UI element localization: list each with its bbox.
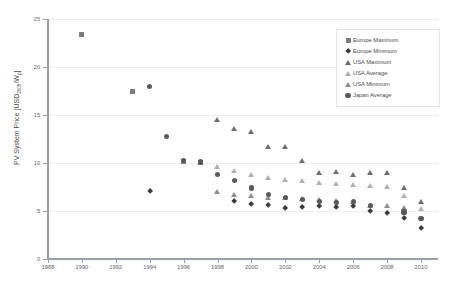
data-point (367, 208, 373, 214)
y-axis-tick-label: 20 (14, 64, 40, 70)
data-point (214, 189, 220, 194)
legend-item-usa-minimum[interactable]: USA Minimum (343, 79, 435, 90)
data-point (248, 172, 254, 177)
data-point (231, 192, 237, 197)
data-point (418, 199, 424, 204)
legend-item-label: Japan Average (353, 90, 392, 101)
data-point (265, 144, 271, 149)
x-axis-tick (184, 259, 185, 263)
legend-item-usa-average[interactable]: USA Average (343, 68, 435, 79)
legend-marker-triangle-icon (343, 79, 353, 90)
data-point (368, 203, 373, 208)
pv-system-price-scatter-chart: PV System Price [USD2005/Wp] 0510152025 … (0, 0, 450, 290)
x-axis-tick (319, 259, 320, 263)
legend-item-usa-maximum[interactable]: USA Maximum (343, 57, 435, 68)
x-axis-tick (387, 259, 388, 263)
data-point (401, 193, 407, 198)
data-point (333, 181, 339, 186)
data-point (79, 32, 84, 37)
data-point (384, 210, 390, 216)
data-point (282, 205, 288, 211)
legend-item-label: USA Average (353, 68, 387, 79)
data-point (316, 170, 322, 175)
data-point (248, 201, 254, 207)
x-axis-tick (251, 259, 252, 263)
legend-item-europe-maximum[interactable]: Europe Maximum (343, 35, 435, 46)
y-axis-title-sub-p: p (17, 72, 22, 75)
data-point (333, 204, 339, 210)
data-point (249, 185, 254, 190)
data-point (214, 164, 220, 169)
data-point (265, 175, 271, 180)
data-point (248, 129, 254, 134)
data-point (418, 216, 423, 221)
data-point (367, 170, 373, 175)
data-point (367, 183, 373, 188)
legend-item-label: Europe Minimum (353, 46, 397, 57)
data-point (164, 134, 169, 139)
data-point (299, 158, 305, 163)
y-axis-tick-label: 15 (14, 112, 40, 118)
y-axis-title-main: PV System Price [USD (13, 94, 20, 165)
data-point (248, 193, 254, 198)
data-point (317, 199, 322, 204)
x-axis-tick-label: 2010 (401, 264, 441, 271)
data-point (418, 225, 424, 231)
data-point (231, 198, 237, 204)
x-axis-tick (285, 259, 286, 263)
x-axis-tick (218, 259, 219, 263)
legend-item-label: USA Maximum (353, 57, 391, 68)
x-axis-tick (48, 259, 49, 263)
data-point (333, 169, 339, 174)
data-point (316, 180, 322, 185)
data-point (282, 144, 288, 149)
legend-item-europe-minimum[interactable]: Europe Minimum (343, 46, 435, 57)
data-point (282, 177, 288, 182)
data-point (418, 206, 424, 211)
data-point (300, 197, 305, 202)
data-point (147, 84, 152, 89)
y-axis-title-tail: /W (13, 75, 20, 84)
x-axis-tick (116, 259, 117, 263)
data-point (232, 178, 237, 183)
data-point (401, 215, 407, 221)
data-point (384, 203, 390, 208)
legend-marker-square-icon (343, 35, 353, 46)
y-axis-title-sub-year: 2005 (17, 84, 22, 94)
legend-item-label: USA Minimum (353, 79, 390, 90)
x-axis-tick (150, 259, 151, 263)
y-axis-tick-label: 0 (14, 256, 40, 262)
data-point (384, 184, 390, 189)
data-point (130, 89, 135, 94)
data-point (401, 209, 406, 214)
data-point (299, 178, 305, 183)
x-axis-tick (82, 259, 83, 263)
data-point (215, 172, 220, 177)
data-point (334, 200, 339, 205)
data-point (316, 203, 322, 209)
legend-item-label: Europe Maximum (353, 35, 398, 46)
data-point (181, 158, 186, 163)
data-point (265, 202, 271, 208)
data-point (350, 182, 356, 187)
chart-legend: Europe MaximumEurope MinimumUSA MaximumU… (336, 29, 440, 107)
data-point (214, 117, 220, 122)
x-axis-tick (421, 259, 422, 263)
x-axis-tick (353, 259, 354, 263)
data-point (231, 168, 237, 173)
legend-marker-circle-icon (343, 90, 353, 101)
data-point (351, 199, 356, 204)
y-axis-tick-label: 5 (14, 208, 40, 214)
y-axis-tick-label: 10 (14, 160, 40, 166)
y-axis-tick-label: 25 (14, 16, 40, 22)
y-axis-title: PV System Price [USD2005/Wp] (12, 165, 26, 290)
legend-item-japan-average[interactable]: Japan Average (343, 90, 435, 101)
legend-marker-triangle-icon (343, 57, 353, 68)
data-point (299, 204, 305, 210)
data-point (401, 185, 407, 190)
legend-marker-diamond-icon (343, 46, 353, 57)
data-point (350, 172, 356, 177)
data-point (231, 126, 237, 131)
data-point (147, 188, 153, 194)
data-point (384, 170, 390, 175)
